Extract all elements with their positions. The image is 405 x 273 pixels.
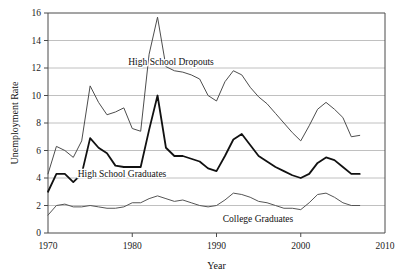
x-tick-label: 1980 (123, 241, 142, 251)
series-line-college-graduates (48, 193, 360, 215)
y-tick-label: 10 (32, 91, 42, 101)
y-tick-label: 6 (36, 146, 41, 156)
unemployment-rate-line-chart: 024681012141619701980199020002010High Sc… (0, 0, 405, 273)
series-annotation: High School Dropouts (128, 57, 214, 67)
x-tick-label: 1990 (207, 241, 226, 251)
y-tick-label: 2 (36, 201, 41, 211)
series-annotation: College Graduates (223, 214, 294, 224)
chart-container: 024681012141619701980199020002010High Sc… (0, 0, 405, 273)
series-annotation: High School Graduates (78, 169, 167, 179)
y-tick-label: 8 (36, 118, 41, 128)
x-tick-label: 1970 (39, 241, 58, 251)
x-axis-title: Year (207, 260, 226, 271)
y-tick-label: 4 (36, 173, 41, 183)
x-tick-label: 2010 (376, 241, 395, 251)
y-tick-label: 0 (36, 228, 41, 238)
x-tick-label: 2000 (291, 241, 310, 251)
y-tick-label: 14 (32, 36, 42, 46)
y-tick-label: 12 (32, 63, 42, 73)
y-axis-title: Unemployment Rate (9, 81, 20, 165)
y-tick-label: 16 (32, 8, 42, 18)
